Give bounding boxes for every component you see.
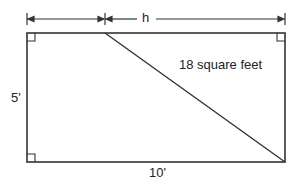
dimension-line bbox=[27, 13, 285, 25]
geometry-diagram bbox=[0, 0, 295, 187]
top-dimension-label: h bbox=[142, 10, 149, 25]
right-angle-markers bbox=[27, 33, 285, 162]
bottom-side-label: 10' bbox=[149, 165, 166, 180]
rectangle bbox=[27, 33, 285, 162]
diagonal-line bbox=[105, 33, 285, 162]
left-side-label: 5' bbox=[11, 90, 21, 105]
area-label: 18 square feet bbox=[179, 57, 262, 72]
